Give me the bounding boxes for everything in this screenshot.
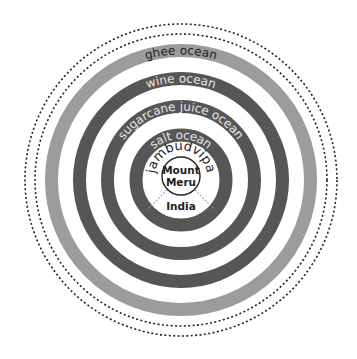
india-label: India — [166, 200, 196, 212]
ghee-ocean-label-text: ghee ocean — [143, 43, 219, 62]
mount-meru-label-line2: Meru — [166, 176, 196, 188]
ghee-ocean-label: ghee ocean — [143, 43, 219, 62]
wine-ocean-label-text: wine ocean — [144, 71, 218, 91]
mount-meru-label-line1: Mount — [162, 164, 200, 176]
cosmology-diagram: ghee ocean wine ocean sugarcane juice oc… — [0, 0, 357, 359]
diagram-svg: ghee ocean wine ocean sugarcane juice oc… — [0, 0, 357, 359]
wine-ocean-label: wine ocean — [144, 71, 218, 91]
